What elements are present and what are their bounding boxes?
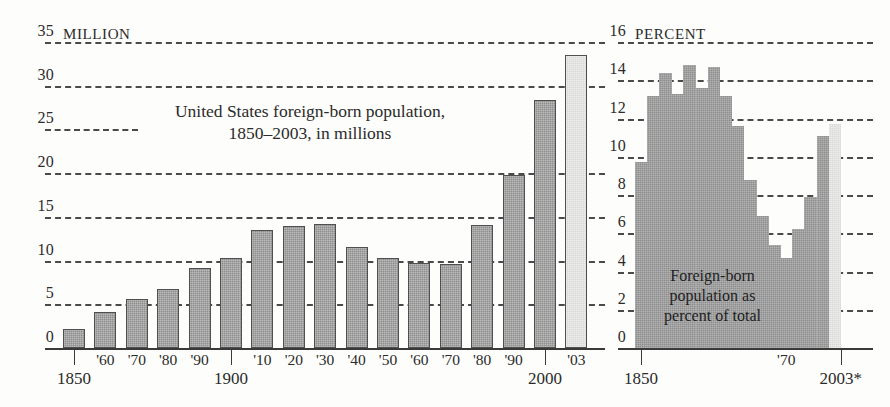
right-x-tick-label: 2003* bbox=[806, 371, 876, 387]
right-y-tick-label: 16 bbox=[600, 23, 626, 39]
left-bar bbox=[220, 258, 242, 348]
right-gridline bbox=[618, 42, 873, 44]
left-x-major-label: 2000 bbox=[515, 371, 575, 387]
chart-foreign-born-millions: MILLION 05101520253035 United States for… bbox=[0, 0, 600, 407]
right-x-axis-line bbox=[618, 348, 873, 350]
right-y-tick-label: 4 bbox=[600, 253, 626, 269]
right-x-tick-label: 1850 bbox=[606, 371, 676, 387]
left-bar bbox=[377, 258, 399, 348]
left-gridline bbox=[45, 42, 605, 44]
right-y-tick-label: 0 bbox=[600, 329, 626, 345]
left-y-tick-label: 20 bbox=[26, 154, 54, 170]
left-bar bbox=[251, 230, 273, 348]
left-bar bbox=[565, 55, 587, 348]
right-area-step bbox=[829, 124, 842, 348]
left-bar bbox=[314, 224, 336, 348]
left-x-tick-label: '03 bbox=[556, 352, 596, 368]
right-area-step bbox=[804, 197, 817, 348]
right-y-tick-label: 12 bbox=[600, 100, 626, 116]
right-x-major-tickmark bbox=[841, 349, 842, 365]
right-y-tick-label: 14 bbox=[600, 61, 626, 77]
left-y-tick-label: 25 bbox=[26, 110, 54, 126]
left-bar bbox=[94, 312, 116, 348]
right-area-step bbox=[792, 229, 805, 348]
left-x-major-tickmark bbox=[231, 349, 232, 365]
right-unit-label: PERCENT bbox=[635, 26, 706, 43]
right-chart-caption: Foreign-born population as percent of to… bbox=[635, 266, 790, 326]
right-gridline bbox=[618, 80, 873, 82]
left-bar bbox=[534, 100, 556, 348]
chart-foreign-born-percent: PERCENT 0246810121416 Foreign-born popul… bbox=[600, 0, 890, 407]
left-x-major-label: 1900 bbox=[201, 371, 261, 387]
left-y-tick-label: 15 bbox=[26, 198, 54, 214]
left-x-major-label: 1850 bbox=[44, 371, 104, 387]
left-bar bbox=[440, 264, 462, 348]
left-gridline bbox=[45, 129, 138, 131]
right-y-tick-label: 6 bbox=[600, 214, 626, 230]
left-x-axis-line bbox=[45, 348, 605, 350]
left-bar bbox=[189, 268, 211, 348]
left-x-tick-label: '90 bbox=[180, 352, 220, 368]
right-y-tick-label: 2 bbox=[600, 291, 626, 307]
right-y-tick-label: 8 bbox=[600, 176, 626, 192]
left-bar bbox=[63, 329, 85, 348]
left-y-tick-label: 0 bbox=[26, 329, 54, 345]
left-x-major-tickmark bbox=[74, 349, 75, 365]
left-y-tick-label: 10 bbox=[26, 242, 54, 258]
left-x-major-tickmark bbox=[545, 349, 546, 365]
left-y-tick-label: 30 bbox=[26, 67, 54, 83]
right-x-major-tickmark bbox=[641, 349, 642, 365]
left-unit-label: MILLION bbox=[63, 26, 131, 43]
right-area-step bbox=[817, 136, 830, 348]
left-bar bbox=[503, 175, 525, 348]
left-bar bbox=[471, 225, 493, 348]
figure-root: MILLION 05101520253035 United States for… bbox=[0, 0, 890, 407]
left-bar bbox=[408, 263, 430, 348]
right-x-tick-label: '70 bbox=[751, 352, 821, 368]
left-chart-caption: United States foreign-born population, 1… bbox=[150, 100, 470, 144]
left-bar bbox=[126, 299, 148, 348]
left-gridline bbox=[45, 86, 605, 88]
left-y-tick-label: 35 bbox=[26, 23, 54, 39]
left-bar bbox=[283, 226, 305, 348]
left-x-tick-label: '90 bbox=[494, 352, 534, 368]
left-bar bbox=[157, 289, 179, 348]
left-bar bbox=[346, 247, 368, 348]
left-y-tick-label: 5 bbox=[26, 285, 54, 301]
right-y-tick-label: 10 bbox=[600, 138, 626, 154]
